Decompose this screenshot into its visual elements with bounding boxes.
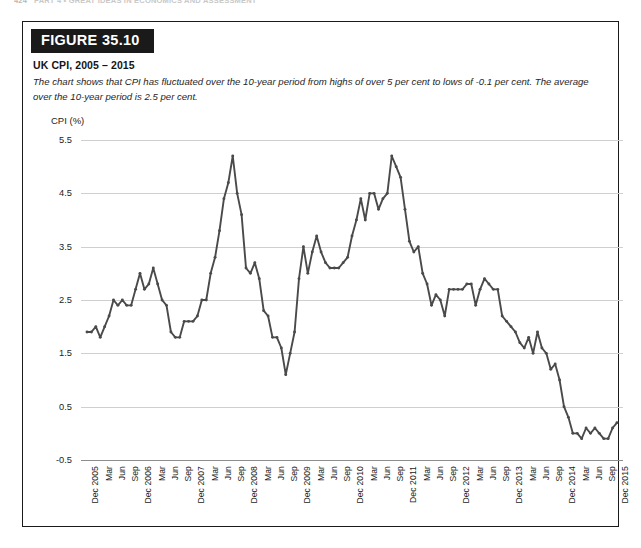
data-point-marker xyxy=(563,405,566,408)
data-point-marker xyxy=(487,283,490,286)
data-point-marker xyxy=(576,432,579,435)
data-point-marker xyxy=(90,331,93,334)
data-point-marker xyxy=(161,299,164,302)
x-axis-tick-label: Sep xyxy=(183,466,193,482)
data-point-marker xyxy=(593,427,596,430)
x-axis-tick-label: Mar xyxy=(104,466,114,481)
data-point-marker xyxy=(426,283,429,286)
data-point-marker xyxy=(364,219,367,222)
x-axis-tick-label: Sep xyxy=(342,466,352,482)
running-head: 424 PART 4 • GREAT IDEAS IN ECONOMICS AN… xyxy=(14,0,257,5)
data-point-marker xyxy=(169,331,172,334)
data-point-marker xyxy=(320,251,323,254)
x-axis-tick-label: Jun xyxy=(223,466,233,480)
x-axis-tick-label: Sep xyxy=(501,466,511,482)
data-point-marker xyxy=(86,331,89,334)
y-axis-tick-label: 2.5 xyxy=(59,295,72,305)
data-point-marker xyxy=(139,272,142,275)
data-point-marker xyxy=(214,256,217,259)
x-axis-tick-label: Jun xyxy=(594,466,604,480)
data-point-marker xyxy=(558,379,561,382)
x-axis-tick-label: Sep xyxy=(236,466,246,482)
data-point-marker xyxy=(505,320,508,323)
data-point-marker xyxy=(258,277,261,280)
data-point-marker xyxy=(602,437,605,440)
data-point-marker xyxy=(470,283,473,286)
data-point-marker xyxy=(280,347,283,350)
data-point-marker xyxy=(328,267,331,270)
data-point-marker xyxy=(337,267,340,270)
data-point-marker xyxy=(293,331,296,334)
x-axis-tick-label: Jun xyxy=(541,466,551,480)
data-point-marker xyxy=(408,240,411,243)
data-point-marker xyxy=(253,261,256,264)
x-axis-tick-label: Dec 2015 xyxy=(620,466,630,504)
data-point-marker xyxy=(99,336,102,339)
data-point-marker xyxy=(598,432,601,435)
data-point-marker xyxy=(116,304,119,307)
data-point-marker xyxy=(143,288,146,291)
data-point-marker xyxy=(448,288,451,291)
data-point-marker xyxy=(386,192,389,195)
x-axis-tick-label: Mar xyxy=(528,466,538,481)
data-point-marker xyxy=(298,277,301,280)
x-axis-tick-label: Mar xyxy=(263,466,273,481)
data-point-marker xyxy=(381,197,384,200)
data-point-marker xyxy=(616,421,619,424)
data-point-marker xyxy=(227,181,230,184)
data-point-marker xyxy=(315,235,318,238)
data-point-marker xyxy=(412,251,415,254)
data-point-marker xyxy=(209,272,212,275)
data-point-marker xyxy=(540,347,543,350)
data-point-marker xyxy=(465,283,468,286)
data-point-marker xyxy=(523,347,526,350)
data-point-marker xyxy=(443,315,446,318)
data-point-marker xyxy=(236,192,239,195)
data-point-marker xyxy=(121,299,124,302)
cpi-line-path xyxy=(87,156,617,439)
x-axis-tick-label: Jun xyxy=(276,466,286,480)
data-point-marker xyxy=(439,299,442,302)
figure-page: 424 PART 4 • GREAT IDEAS IN ECONOMICS AN… xyxy=(0,0,641,548)
x-axis-tick-label: Jun xyxy=(382,466,392,480)
data-point-marker xyxy=(187,320,190,323)
data-point-marker xyxy=(196,315,199,318)
data-point-marker xyxy=(404,208,407,211)
figure-number-tab: FIGURE 35.10 xyxy=(31,29,154,53)
data-point-marker xyxy=(395,165,398,168)
running-head-text: PART 4 • GREAT IDEAS IN ECONOMICS AND AS… xyxy=(34,0,257,5)
plot-area: -0.50.51.52.53.54.55.5 Dec 2005MarJunSep… xyxy=(81,140,623,460)
data-point-marker xyxy=(536,331,539,334)
data-point-marker xyxy=(554,363,557,366)
data-point-marker xyxy=(496,288,499,291)
data-point-marker xyxy=(452,288,455,291)
data-point-marker xyxy=(457,288,460,291)
data-point-marker xyxy=(355,219,358,222)
gridline xyxy=(81,460,623,461)
data-point-marker xyxy=(351,235,354,238)
x-axis-tick-label: Dec 2007 xyxy=(196,466,206,504)
data-point-marker xyxy=(267,315,270,318)
data-point-marker xyxy=(271,336,274,339)
data-point-marker xyxy=(134,288,137,291)
data-point-marker xyxy=(571,432,574,435)
data-point-marker xyxy=(474,304,477,307)
data-point-marker xyxy=(549,368,552,371)
page-folio: 424 xyxy=(14,0,27,5)
data-point-marker xyxy=(518,341,521,344)
data-point-marker xyxy=(532,352,535,355)
data-point-marker xyxy=(421,272,424,275)
x-axis-tick-label: Jun xyxy=(329,466,339,480)
x-axis-tick-label: Dec 2014 xyxy=(567,466,577,504)
data-point-marker xyxy=(373,192,376,195)
x-axis-tick-label: Sep xyxy=(554,466,564,482)
y-axis-title: CPI (%) xyxy=(51,115,84,126)
x-axis-tick-label: Mar xyxy=(475,466,485,481)
x-axis-tick-label: Mar xyxy=(157,466,167,481)
data-point-marker xyxy=(461,288,464,291)
data-point-marker xyxy=(585,427,588,430)
data-point-marker xyxy=(130,304,133,307)
data-point-marker xyxy=(240,213,243,216)
data-point-marker xyxy=(567,416,570,419)
data-point-marker xyxy=(174,336,177,339)
